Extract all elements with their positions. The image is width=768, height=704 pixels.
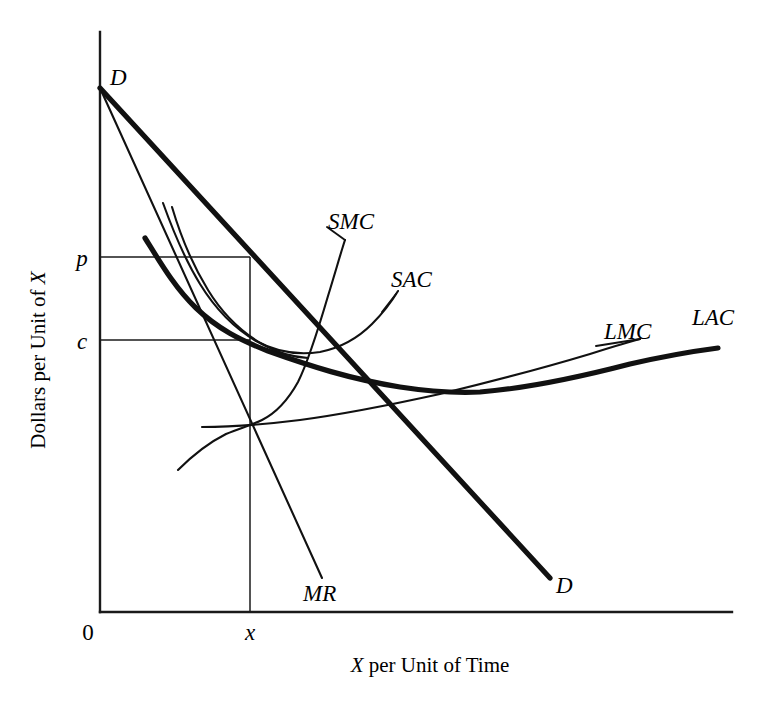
- sac-leader-line: [382, 294, 396, 312]
- short-run-marginal-cost-curve: [178, 240, 345, 470]
- labels-group: p c x 0 D D MR SMC SAC LMC LAC: [74, 65, 735, 645]
- price-tick-label: p: [74, 246, 88, 271]
- short-run-average-cost-label: SAC: [391, 267, 433, 292]
- cost-tick-label: c: [77, 329, 87, 354]
- quantity-tick-label: x: [244, 620, 256, 645]
- y-axis-title-variable: X: [26, 270, 50, 285]
- x-axis-title: X per Unit of Time: [350, 653, 510, 677]
- marginal-revenue-label: MR: [302, 581, 336, 606]
- demand-curve: [100, 88, 550, 578]
- long-run-marginal-cost-label: LMC: [603, 319, 652, 344]
- x-axis-title-suffix: per Unit of Time: [363, 653, 509, 677]
- y-axis-title: Dollars per Unit of X: [26, 270, 50, 448]
- short-run-average-cost-upper-arm: [172, 207, 308, 358]
- leader-lines-group: [327, 227, 640, 346]
- demand-bottom-label: D: [555, 573, 573, 598]
- short-run-marginal-cost-label: SMC: [328, 209, 375, 234]
- long-run-average-cost-label: LAC: [691, 305, 735, 330]
- y-axis-title-prefix: Dollars per Unit of: [26, 284, 50, 448]
- demand-top-label: D: [109, 65, 127, 90]
- axis-titles-group: Dollars per Unit of X X per Unit of Time: [26, 270, 509, 677]
- origin-label: 0: [82, 620, 94, 645]
- diagram-canvas: p c x 0 D D MR SMC SAC LMC LAC Dollars p…: [0, 0, 768, 704]
- x-axis-title-variable: X: [350, 653, 365, 677]
- long-run-average-cost-curve: [145, 238, 718, 392]
- marginal-revenue-curve: [100, 88, 322, 578]
